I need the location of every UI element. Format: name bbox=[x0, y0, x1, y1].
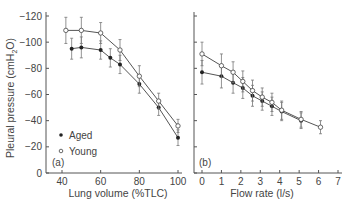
aged-point bbox=[108, 56, 112, 60]
young-point bbox=[156, 99, 160, 103]
legend-aged-marker bbox=[59, 133, 63, 137]
x-tick-label: 7 bbox=[335, 176, 341, 187]
axis-lines bbox=[194, 12, 342, 173]
young-point bbox=[79, 28, 83, 32]
x-tick-label: 60 bbox=[95, 176, 107, 187]
x-tick-label: 80 bbox=[134, 176, 146, 187]
aged-point bbox=[99, 48, 103, 52]
y-axis-label: Pleural pressure (cmH2O) bbox=[4, 38, 18, 158]
aged-point bbox=[200, 70, 204, 74]
young-point bbox=[241, 79, 245, 83]
x-tick-label: 6 bbox=[316, 176, 322, 187]
x-tick-label: 3 bbox=[258, 176, 264, 187]
young-point bbox=[318, 125, 322, 129]
y-tick-label: −60 bbox=[25, 89, 42, 100]
young-point bbox=[176, 124, 180, 128]
panel-a: 0−20−40−60−80−100−120406080100 bbox=[19, 11, 186, 188]
axis-lines bbox=[46, 12, 182, 173]
x-tick-label: 40 bbox=[56, 176, 68, 187]
x-tick-label: 100 bbox=[170, 176, 187, 187]
x-tick-label: 4 bbox=[277, 176, 283, 187]
y-tick-label: −20 bbox=[25, 141, 42, 152]
young-point bbox=[279, 108, 283, 112]
young-point bbox=[250, 88, 254, 92]
aged-point bbox=[79, 45, 83, 49]
young-point bbox=[219, 64, 223, 68]
aged-point bbox=[70, 47, 74, 51]
legend-aged-label: Aged bbox=[69, 130, 92, 141]
young-point bbox=[260, 95, 264, 99]
young-point bbox=[270, 100, 274, 104]
legend-young-marker bbox=[59, 149, 63, 153]
x-tick-label: 2 bbox=[238, 176, 244, 187]
x-axis-label-a: Lung volume (%TLC) bbox=[68, 187, 167, 199]
young-point bbox=[64, 28, 68, 32]
x-tick-label: 5 bbox=[296, 176, 302, 187]
young-point bbox=[98, 31, 102, 35]
y-tick-label: −40 bbox=[25, 115, 42, 126]
young-point bbox=[299, 117, 303, 121]
y-tick-label: −120 bbox=[19, 11, 42, 22]
legend: Aged Young bbox=[59, 130, 97, 157]
young-point bbox=[137, 74, 141, 78]
x-tick-label: 0 bbox=[199, 176, 205, 187]
aged-point bbox=[118, 62, 122, 66]
panel-a-label: (a) bbox=[52, 157, 64, 168]
panel-b-label: (b) bbox=[199, 157, 211, 168]
y-tick-label: 0 bbox=[36, 168, 42, 179]
aged-point bbox=[176, 136, 180, 140]
chart-svg: Pleural pressure (cmH2O) 0−20−40−60−80−1… bbox=[0, 0, 353, 210]
aged-line bbox=[72, 47, 178, 137]
panel-b: 01234567 bbox=[194, 12, 342, 187]
pleural-pressure-figure: Pleural pressure (cmH2O) 0−20−40−60−80−1… bbox=[0, 0, 353, 210]
young-point bbox=[200, 52, 204, 56]
x-axis-label-b: Flow rate (l/s) bbox=[230, 187, 294, 199]
young-point bbox=[231, 70, 235, 74]
young-point bbox=[118, 48, 122, 52]
y-tick-label: −100 bbox=[19, 37, 42, 48]
x-tick-label: 1 bbox=[219, 176, 225, 187]
legend-young-label: Young bbox=[69, 146, 97, 157]
y-tick-label: −80 bbox=[25, 63, 42, 74]
